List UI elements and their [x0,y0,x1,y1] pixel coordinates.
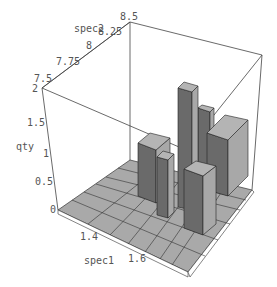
z-tick: 1.5 [27,117,45,128]
x-axis-label: spec1 [84,255,114,266]
y-tick: 8.5 [120,11,138,22]
y-tick: 7.5 [34,73,52,84]
bar [157,151,174,218]
bar [184,161,216,235]
x-tick: 1.4 [80,231,98,242]
y-axis-label: spec2 [74,23,104,34]
z-tick: 1 [43,148,49,159]
bar3d-chart: 2 1.5 1 0.5 0 qty 7.5 7.75 8 8.25 8.5 sp… [0,0,277,287]
z-axis-label: qty [16,141,34,152]
z-tick: 2 [32,83,38,94]
y-tick: 8 [86,40,92,51]
x-tick: 1.6 [128,253,146,264]
y-tick: 7.75 [56,56,80,67]
z-tick: 0 [50,204,56,215]
y-axis: 7.5 7.75 8 8.25 8.5 spec2 [34,11,138,84]
z-tick: 0.5 [35,176,53,187]
